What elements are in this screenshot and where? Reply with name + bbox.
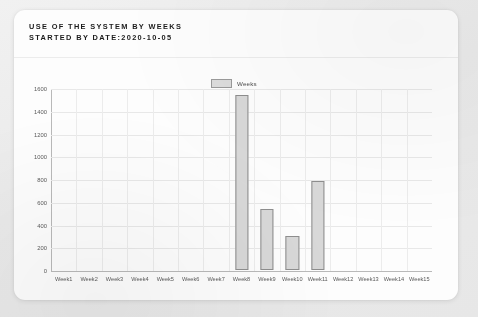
gridline-y-0	[51, 271, 432, 272]
y-tick-label: 0	[44, 268, 47, 274]
x-tick-label-week7: Week7	[207, 276, 224, 282]
gridline-x-Week10	[280, 89, 281, 271]
gridline-x-Week9	[254, 89, 255, 271]
x-tick-label-week5: Week5	[157, 276, 174, 282]
title-line-2: STARTED BY DATE:2020-10-05	[29, 33, 429, 44]
gridline-x-Week8	[229, 89, 230, 271]
gridline-x-Week5	[153, 89, 154, 271]
x-tick-label-week9: Week9	[258, 276, 275, 282]
x-tick-label-week6: Week6	[182, 276, 199, 282]
x-tick-label-week15: Week15	[409, 276, 429, 282]
y-tick-label: 1400	[34, 109, 47, 115]
gridline-x-Week12	[330, 89, 331, 271]
header-divider	[14, 57, 458, 58]
gridline-x-Week7	[203, 89, 204, 271]
legend-label: Weeks	[237, 80, 257, 87]
y-tick-label: 1200	[34, 132, 47, 138]
legend-swatch-icon	[211, 79, 232, 88]
x-tick-label-week13: Week13	[358, 276, 378, 282]
x-tick-label-week8: Week8	[233, 276, 250, 282]
bar-week8[interactable]	[235, 95, 248, 270]
gridline-x-Week3	[102, 89, 103, 271]
gridline-x-Week6	[178, 89, 179, 271]
gridline-x-Week15	[407, 89, 408, 271]
gridline-y-1600	[51, 89, 432, 90]
bar-week10[interactable]	[286, 236, 299, 270]
gridline-x-Week2	[76, 89, 77, 271]
title-line-1: USE OF THE SYSTEM BY WEEKS	[29, 22, 429, 33]
chart-card: USE OF THE SYSTEM BY WEEKS STARTED BY DA…	[14, 10, 458, 300]
y-tick-label: 200	[37, 245, 47, 251]
x-tick-label-week11: Week11	[308, 276, 328, 282]
screenshot-root: USE OF THE SYSTEM BY WEEKS STARTED BY DA…	[0, 0, 478, 317]
x-tick-label-week2: Week2	[80, 276, 97, 282]
x-tick-label-week14: Week14	[384, 276, 404, 282]
y-tick-label: 400	[37, 223, 47, 229]
y-tick-label: 1600	[34, 86, 47, 92]
chart-plot-area: 02004006008001000120014001600 Week1Week2…	[51, 89, 432, 271]
x-tick-label-week10: Week10	[282, 276, 302, 282]
gridline-x-Week13	[356, 89, 357, 271]
x-tick-label-week4: Week4	[131, 276, 148, 282]
gridline-x-Week11	[305, 89, 306, 271]
gridline-x-Week4	[127, 89, 128, 271]
y-tick-label: 800	[37, 177, 47, 183]
bar-week11[interactable]	[311, 181, 324, 270]
y-tick-label: 1000	[34, 154, 47, 160]
x-tick-label-week1: Week1	[55, 276, 72, 282]
bar-week9[interactable]	[260, 209, 273, 270]
x-tick-label-week12: Week12	[333, 276, 353, 282]
chart-legend: Weeks	[211, 79, 257, 88]
y-tick-label: 600	[37, 200, 47, 206]
page-title: USE OF THE SYSTEM BY WEEKS STARTED BY DA…	[29, 22, 429, 43]
x-tick-label-week3: Week3	[106, 276, 123, 282]
gridline-x-Week14	[381, 89, 382, 271]
